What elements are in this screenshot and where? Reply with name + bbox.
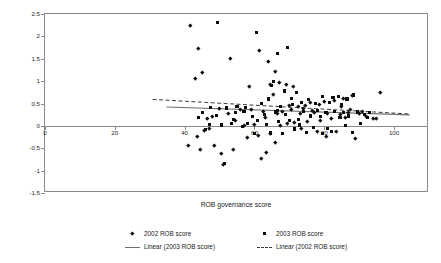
data-point-series-2 <box>368 111 371 114</box>
data-point-series-2 <box>297 118 300 121</box>
data-point-series-2 <box>295 91 298 94</box>
y-tick-label: -1 <box>34 168 40 174</box>
legend-item[interactable]: 2003 ROB score <box>256 228 323 239</box>
scatter-chart-figure: Change in market capital (%) -1.5-1-0.50… <box>0 0 441 263</box>
y-tick-label: 1 <box>37 78 40 84</box>
data-point-series-2 <box>307 98 310 101</box>
data-point-series-2 <box>298 123 301 126</box>
data-point-series-2 <box>272 80 275 83</box>
y-tick-mark <box>41 81 45 82</box>
data-point-series-2 <box>337 95 340 98</box>
data-point-series-2 <box>256 119 259 122</box>
x-tick-label: 100 <box>389 130 399 136</box>
data-point-series-2 <box>276 52 279 55</box>
data-point-series-2 <box>223 162 226 165</box>
dashed-line-icon <box>256 242 272 251</box>
data-point-series-2 <box>255 31 258 34</box>
data-point-series-2 <box>244 106 247 109</box>
data-point-series-2 <box>356 110 359 113</box>
data-point-series-2 <box>201 111 204 114</box>
data-point-series-2 <box>241 125 244 128</box>
data-point-series-2 <box>246 122 249 125</box>
data-point-series-2 <box>331 96 334 99</box>
data-point-series-2 <box>321 132 324 135</box>
y-tick-label: -1.5 <box>29 190 40 196</box>
legend-item[interactable]: 2002 ROB score <box>124 228 191 239</box>
data-point-series-2 <box>366 116 369 119</box>
data-point-series-2 <box>242 110 245 113</box>
x-axis-title: ROB governance score <box>44 200 428 209</box>
data-point-series-2 <box>290 97 293 100</box>
data-point-series-2 <box>338 116 341 119</box>
square-marker-icon <box>256 229 272 238</box>
plot-area: -1.5-1-0.500.511.522.5020406080100 <box>44 13 428 192</box>
data-point-series-2 <box>215 114 218 117</box>
y-tick-label: 0 <box>37 123 40 129</box>
data-point-series-2 <box>197 116 200 119</box>
data-point-series-2 <box>281 132 284 135</box>
data-point-series-2 <box>234 111 237 114</box>
data-point-series-2 <box>344 124 347 127</box>
legend-item[interactable]: Linear (2002 ROB score) <box>256 241 347 252</box>
data-point-series-2 <box>286 46 289 49</box>
data-point-series-2 <box>251 115 254 118</box>
data-point-series-2 <box>340 103 343 106</box>
data-point-series-2 <box>277 120 280 123</box>
data-point-series-2 <box>263 113 266 116</box>
zero-reference-line <box>45 126 427 127</box>
legend-label: Linear (2003 ROB score) <box>144 243 215 251</box>
x-tick-label: 20 <box>111 130 118 136</box>
data-point-series-2 <box>284 113 287 116</box>
data-point-series-2 <box>300 101 303 104</box>
y-tick-mark <box>41 104 45 105</box>
data-point-series-2 <box>209 106 212 109</box>
data-point-series-2 <box>291 103 294 106</box>
data-point-series-2 <box>260 102 263 105</box>
y-axis-title: Change in market capital (%) <box>1 0 13 35</box>
data-point-series-2 <box>208 123 211 126</box>
chart-legend: 2002 ROB score2003 ROB scoreLinear (2003… <box>124 228 354 254</box>
data-point-series-2 <box>314 102 317 105</box>
data-point-series-2 <box>309 114 312 117</box>
x-tick-label: 40 <box>181 130 188 136</box>
data-point-series-2 <box>267 97 270 100</box>
y-tick-label: -0.5 <box>29 145 40 151</box>
y-tick-mark <box>41 193 45 194</box>
data-point-series-2 <box>232 118 235 121</box>
data-point-series-2 <box>321 95 324 98</box>
y-tick-label: 1.5 <box>31 56 40 62</box>
data-point-series-2 <box>288 119 291 122</box>
data-point-series-2 <box>293 127 296 130</box>
data-point-series-2 <box>216 21 219 24</box>
data-point-series-2 <box>270 84 273 87</box>
legend-label: Linear (2002 ROB score) <box>276 243 347 251</box>
diamond-marker-icon <box>124 229 140 238</box>
data-point-series-2 <box>302 110 305 113</box>
data-point-series-2 <box>225 106 228 109</box>
legend-item[interactable]: Linear (2003 ROB score) <box>124 241 215 252</box>
data-point-series-2 <box>352 93 355 96</box>
data-point-series-2 <box>312 126 315 129</box>
data-point-series-2 <box>235 105 238 108</box>
data-point-series-2 <box>265 123 268 126</box>
data-point-series-2 <box>324 111 327 114</box>
data-point-series-2 <box>347 114 350 117</box>
data-point-series-2 <box>204 128 207 131</box>
data-point-series-2 <box>230 122 233 125</box>
data-point-series-2 <box>276 109 279 112</box>
data-point-series-2 <box>253 132 256 135</box>
data-point-series-2 <box>319 115 322 118</box>
data-point-series-2 <box>220 123 223 126</box>
data-point-series-2 <box>342 111 345 114</box>
data-point-series-2 <box>345 97 348 100</box>
trendline-layer <box>45 14 427 191</box>
data-point-series-2 <box>328 101 331 104</box>
y-tick-mark <box>41 36 45 37</box>
solid-line-icon <box>124 242 140 251</box>
data-point-series-2 <box>351 131 354 134</box>
y-tick-mark <box>41 148 45 149</box>
legend-label: 2003 ROB score <box>276 230 323 238</box>
y-tick-mark <box>41 171 45 172</box>
data-point-series-2 <box>359 122 362 125</box>
data-point-series-2 <box>333 110 336 113</box>
